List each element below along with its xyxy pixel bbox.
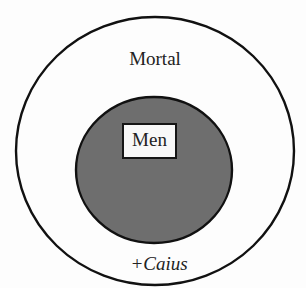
mortal-set-label: Mortal [0, 48, 306, 70]
men-set-circle [76, 97, 232, 243]
men-set-label-box: Men [122, 123, 177, 159]
men-set-label: Men [124, 129, 175, 151]
caius-element-label: +Caius [0, 253, 306, 275]
